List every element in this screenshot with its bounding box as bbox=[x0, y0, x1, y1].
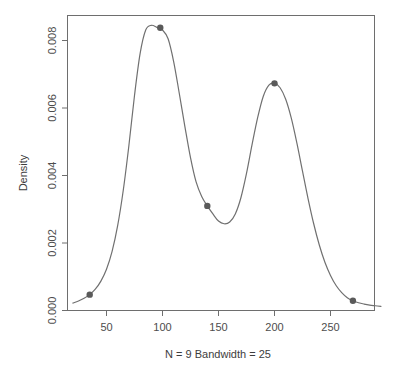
x-tick-label-0: 50 bbox=[100, 321, 112, 333]
x-tick-label-1: 100 bbox=[153, 321, 171, 333]
density-plot-figure: 0.000 0.002 0.004 0.006 0.008 Density 50… bbox=[0, 0, 395, 375]
data-point-2 bbox=[204, 203, 210, 209]
data-point-3 bbox=[271, 80, 277, 86]
x-tick-label-3: 200 bbox=[265, 321, 283, 333]
x-tick-label-4: 250 bbox=[321, 321, 339, 333]
y-tick-label-3: 0.006 bbox=[46, 94, 58, 122]
y-axis-title: Density bbox=[17, 154, 29, 191]
y-tick-label-0: 0.000 bbox=[46, 297, 58, 325]
chart-canvas: 0.000 0.002 0.004 0.006 0.008 Density 50… bbox=[0, 0, 395, 375]
y-tick-label-2: 0.004 bbox=[46, 162, 58, 190]
x-axis-title: N = 9 Bandwidth = 25 bbox=[165, 348, 271, 360]
y-tick-label-1: 0.002 bbox=[46, 229, 58, 257]
data-point-0 bbox=[87, 291, 93, 297]
x-tick-label-2: 150 bbox=[209, 321, 227, 333]
y-tick-label-4: 0.008 bbox=[46, 27, 58, 55]
data-point-1 bbox=[157, 24, 163, 30]
data-point-4 bbox=[350, 298, 356, 304]
